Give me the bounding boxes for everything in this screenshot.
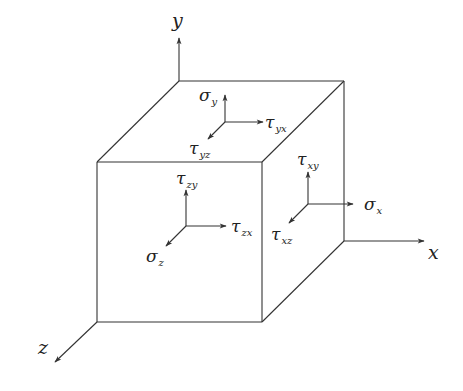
tau-zy-label: τzy — [176, 168, 198, 190]
tau-zy-symbol: τ — [176, 168, 186, 188]
tau-xz-subscript: xz — [281, 235, 293, 246]
sigma-y-label: σy — [199, 85, 218, 107]
z-axis-label: z — [37, 336, 49, 358]
tau-xy-symbol: τ — [297, 149, 307, 169]
tau-xz-symbol: τ — [271, 224, 281, 244]
sigma-z-subscript: z — [158, 257, 165, 268]
stress-cube-diagram: yxz σyτyxτyzτzyτzxσzτxyσxτxz — [0, 0, 463, 391]
tau-zx-subscript: zx — [240, 227, 252, 238]
sigma-x-subscript: x — [377, 205, 383, 216]
tau-xz-label: τxz — [271, 224, 293, 246]
tau-yz-symbol: τ — [189, 138, 199, 158]
tau-yx-subscript: yx — [274, 123, 287, 134]
tau-xz-arrow — [289, 204, 308, 223]
tau-zy-subscript: zy — [185, 179, 197, 190]
z-axis-arrow — [55, 322, 97, 362]
sigma-z-arrow — [166, 226, 186, 246]
top-face-stresses: σyτyxτyz — [189, 85, 287, 160]
front-face-stresses: τzyτzxσz — [146, 168, 253, 268]
sigma-x-label: σx — [364, 194, 383, 216]
tau-yz-arrow — [208, 122, 225, 139]
x-axis-label: x — [428, 241, 439, 263]
tau-yz-subscript: yz — [198, 149, 211, 160]
bottom-right-depth-edge — [262, 241, 344, 322]
tau-zx-label: τzx — [231, 216, 253, 238]
cube-outline — [97, 81, 344, 322]
top-left-depth-edge — [97, 81, 179, 162]
sigma-x-symbol: σ — [364, 194, 376, 214]
tau-xy-label: τxy — [297, 149, 319, 171]
y-axis-label: y — [171, 9, 183, 31]
tau-xy-subscript: xy — [307, 160, 319, 171]
sigma-y-subscript: y — [211, 96, 218, 107]
tau-yx-label: τyx — [265, 112, 287, 134]
tau-zx-symbol: τ — [231, 216, 241, 236]
sigma-z-symbol: σ — [146, 246, 158, 266]
sigma-z-label: σz — [146, 246, 165, 268]
tau-yz-label: τyz — [189, 138, 211, 160]
right-face-stresses: τxyσxτxz — [271, 149, 383, 246]
diagram-svg: yxz σyτyxτyzτzyτzxσzτxyσxτxz — [0, 0, 463, 391]
sigma-y-symbol: σ — [199, 85, 211, 105]
tau-yx-symbol: τ — [265, 112, 275, 132]
